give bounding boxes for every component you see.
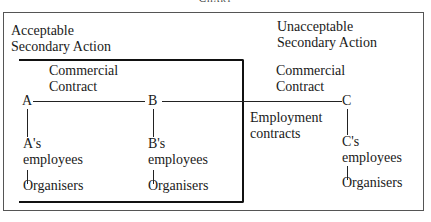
node-b: B	[148, 93, 157, 109]
node-c-employees-line2: employees	[342, 150, 402, 166]
node-a: A	[22, 93, 32, 109]
node-a-organisers: Organisers	[23, 178, 83, 194]
node-a-employees-line2: employees	[23, 152, 83, 168]
line-c-to-employees	[347, 109, 348, 135]
unacceptable-heading: Unacceptable Secondary Action	[277, 19, 377, 51]
node-b-organisers: Organisers	[148, 178, 208, 194]
commercial-contract-bc-label: Commercial Contract	[276, 63, 345, 95]
acceptable-heading-line2: Secondary Action	[11, 39, 111, 55]
diagram-title: Chart	[0, 0, 431, 4]
node-c-employees: C's employees	[342, 134, 402, 166]
commercial-contract-ab-line2: Contract	[49, 79, 118, 95]
acceptable-heading-line1: Acceptable	[11, 23, 111, 39]
node-b-employees-line2: employees	[148, 152, 208, 168]
commercial-contract-ab-label: Commercial Contract	[49, 63, 118, 95]
unacceptable-heading-line2: Secondary Action	[277, 35, 377, 51]
employment-contracts-line2: contracts	[250, 126, 322, 142]
commercial-contract-bc-line1: Commercial	[276, 63, 345, 79]
node-c: C	[342, 93, 351, 109]
employment-contracts-label: Employment contracts	[250, 110, 322, 142]
employment-contracts-line1: Employment	[250, 110, 322, 126]
unacceptable-heading-line1: Unacceptable	[277, 19, 377, 35]
line-b-to-employees	[153, 109, 154, 137]
line-a-to-b	[33, 101, 145, 102]
line-a-to-employees	[27, 109, 28, 137]
acceptable-heading: Acceptable Secondary Action	[11, 23, 111, 55]
commercial-contract-ab-line1: Commercial	[49, 63, 118, 79]
node-c-organisers: Organisers	[342, 175, 402, 191]
node-b-employees: B's employees	[148, 136, 208, 168]
line-b-to-c	[162, 101, 342, 102]
node-c-employees-line1: C's	[342, 134, 402, 150]
commercial-contract-bc-line2: Contract	[276, 79, 345, 95]
node-a-employees: A's employees	[23, 136, 83, 168]
node-a-employees-line1: A's	[23, 136, 83, 152]
node-b-employees-line1: B's	[148, 136, 208, 152]
